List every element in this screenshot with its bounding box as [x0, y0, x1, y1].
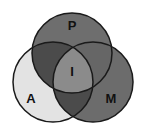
label-center: I — [70, 64, 74, 79]
label-m: M — [106, 91, 117, 106]
venn-diagram: P A M I — [0, 0, 142, 126]
label-a: A — [26, 91, 36, 106]
label-p: P — [68, 18, 77, 33]
